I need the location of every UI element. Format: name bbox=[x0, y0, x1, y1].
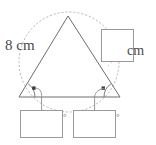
left-angle-degree-symbol: ° bbox=[63, 113, 67, 122]
right-angle-degree-symbol: ° bbox=[116, 113, 120, 122]
side-length-label: 8 cm bbox=[5, 38, 35, 53]
left-angle-marker bbox=[32, 86, 35, 89]
right-angle-leader-line bbox=[95, 88, 105, 110]
right-base-angle-answer-box[interactable] bbox=[74, 111, 116, 138]
left-base-angle-answer-box[interactable] bbox=[21, 111, 63, 138]
side-length-leader-line bbox=[108, 62, 112, 66]
figure-canvas bbox=[0, 0, 156, 145]
left-angle-leader-line bbox=[36, 88, 42, 110]
geometry-figure: 8 cm cm ° ° bbox=[0, 0, 156, 145]
cm-unit-label: cm bbox=[127, 44, 144, 58]
right-angle-arc bbox=[104, 84, 111, 97]
